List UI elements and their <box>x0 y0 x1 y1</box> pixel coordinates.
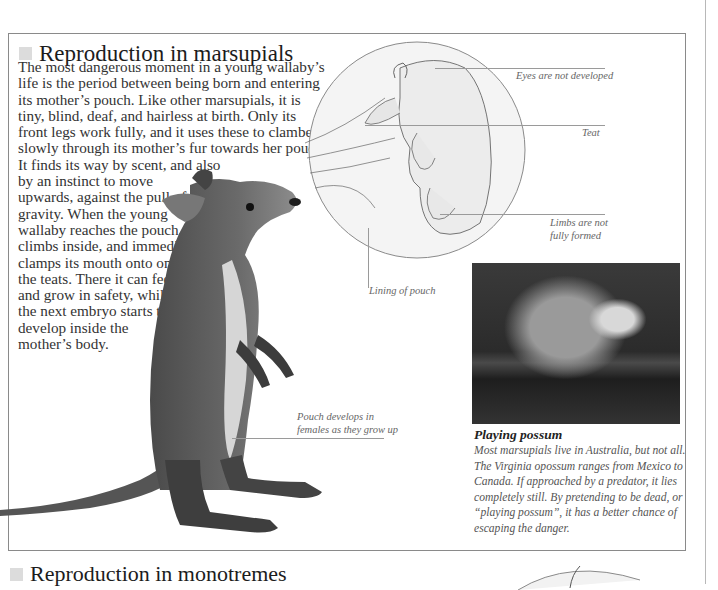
section-heading-monotremes: Reproduction in monotremes <box>10 563 287 585</box>
paragraph-line: slowly through its mother’s fur towards … <box>18 140 298 156</box>
caption-line: “playing possum”, it has a better chance… <box>474 505 684 521</box>
label-line: fully formed <box>550 230 608 243</box>
paragraph-line: life is the period between being born an… <box>18 75 298 91</box>
monotreme-illustration-partial <box>510 560 650 590</box>
lining-leader-line <box>368 228 369 288</box>
paragraph-line: The most dangerous moment in a young wal… <box>18 59 298 75</box>
label-lining-of-pouch: Lining of pouch <box>369 285 436 298</box>
label-line: females as they grow up <box>297 424 398 437</box>
heading-text: Reproduction in monotremes <box>30 563 287 585</box>
label-eyes-not-developed: Eyes are not developed <box>516 70 613 83</box>
pouch-leader-line <box>232 438 384 439</box>
label-pouch-develops: Pouch develops in females as they grow u… <box>297 411 398 436</box>
page-gutter-rule <box>705 0 706 584</box>
caption-line: The Virginia opossum ranges from Mexico … <box>474 459 684 475</box>
caption-line: escaping the danger. <box>474 521 684 537</box>
opossum-photo <box>472 263 680 424</box>
limbs-leader-line <box>440 214 605 215</box>
label-line: Pouch develops in <box>297 411 398 424</box>
heading-square-icon <box>10 568 23 581</box>
label-teat: Teat <box>582 127 600 140</box>
caption-line: Canada. If approached by a predator, it … <box>474 474 684 490</box>
paragraph-line: tiny, blind, deaf, and hairless at birth… <box>18 108 298 124</box>
paragraph-line: its mother’s pouch. Like other marsupial… <box>18 92 298 108</box>
caption-line: completely still. By pretending to be de… <box>474 490 684 506</box>
embryo-illustration <box>305 38 530 263</box>
teat-leader-line <box>365 125 605 126</box>
caption-text-playing-possum: Most marsupials live in Australia, but n… <box>474 443 684 536</box>
caption-title-playing-possum: Playing possum <box>474 427 562 443</box>
caption-line: Most marsupials live in Australia, but n… <box>474 443 684 459</box>
paragraph-line: front legs work fully, and it uses these… <box>18 124 298 140</box>
wallaby-photo <box>0 160 330 540</box>
label-line: Limbs are not <box>550 217 608 230</box>
label-limbs-not-formed: Limbs are not fully formed <box>550 217 608 242</box>
eyes-leader-line <box>435 68 605 69</box>
